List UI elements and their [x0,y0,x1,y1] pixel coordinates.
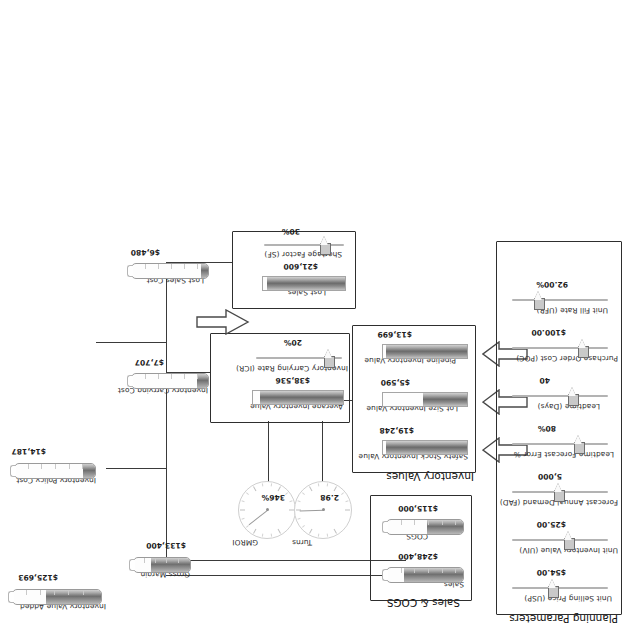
connector-gmroi-to-aiv [268,421,269,483]
value-bar [262,278,344,291]
thermometer-cap [8,591,14,603]
value-bar-fill [267,277,345,290]
slider-track[interactable] [264,244,344,246]
slider-track[interactable] [512,539,608,541]
slider-thumb[interactable] [568,386,577,406]
metric-value: $115,000 [398,504,438,513]
thermometer [14,465,94,479]
connector-up-to-ipc [96,342,167,343]
slider-thumb[interactable] [578,338,587,358]
control-value: 92.00% [536,280,568,289]
metric-value: $248,400 [398,552,438,561]
slider-track[interactable] [512,395,608,397]
thermometer-cap [382,569,388,581]
slider[interactable] [512,583,608,593]
value-bar [382,442,466,455]
thermometer-ticks [132,374,208,388]
slider-thumb-pointer [574,435,582,444]
thermometer [386,569,462,583]
thermometer-ticks [132,264,208,278]
thermometer-cap [10,465,16,477]
control-label: Leadtime Forecast Error % [514,450,614,459]
thermometer-ticks [13,590,101,604]
slider-thumb-pointer [554,483,562,492]
control-value: $54.00 [537,568,566,577]
control-value: $25.00 [537,520,566,529]
slider-track[interactable] [512,587,608,589]
gauge-dial: 2.98 [294,481,352,539]
thermometer-ticks [134,558,190,572]
value-bar [382,346,466,359]
thermometer-ticks [15,464,95,478]
value-bar-tube [382,392,468,407]
thermometer-tube [131,373,209,389]
thermometer-cap [127,375,133,387]
control-label: Unit Fill Rate (UFR) [537,306,608,315]
control-value: 20% [284,338,302,347]
thermometer [386,521,462,535]
value-bar [382,394,466,407]
thermometer-tube [386,567,464,583]
thermometer-tube [133,557,191,573]
metric-value: $7,707 [135,358,164,367]
metric-value: $19,248 [379,426,414,435]
gauge-needle [248,509,268,525]
slider-thumb-pointer [578,339,586,348]
slider-thumb[interactable] [320,235,329,255]
slider-track[interactable] [512,347,608,349]
slider-thumb-pointer [320,236,328,245]
value-bar-tube [252,390,344,405]
gauge-hub [322,509,325,512]
gauge-label: GMROI [232,538,258,547]
connector-up-to-iva [106,468,167,469]
slider[interactable] [512,391,608,401]
value-bar-fill [386,441,467,454]
slider-thumb[interactable] [324,348,333,368]
slider[interactable] [256,353,342,363]
thermometer-ticks [387,568,463,582]
control-label: Unit Selling Price (USP) [524,594,612,603]
gauge-needle [300,509,324,511]
thermometer-tube [14,463,96,479]
metric-value: $14,187 [11,447,46,456]
slider-thumb[interactable] [548,578,557,598]
slider-track[interactable] [512,443,608,445]
control-value: 30% [282,227,300,236]
thermometer-cap [127,265,133,277]
slider[interactable] [512,295,608,305]
connector-turns-to-aiv [322,421,323,483]
slider-thumb[interactable] [564,530,573,550]
value-bar-fill [423,393,467,406]
control-value: $100.00 [531,328,566,337]
control-value: 80% [538,424,556,433]
value-bar-fill [386,345,467,358]
thermometer [131,265,207,279]
slider-thumb-pointer [568,387,576,396]
slider-thumb[interactable] [574,434,583,454]
thermometer-tube [131,263,209,279]
thermometer-ticks [387,520,463,534]
slider[interactable] [264,240,344,250]
slider-thumb[interactable] [534,290,543,310]
slider[interactable] [512,439,608,449]
gauge-label: Turns [292,538,312,547]
gauge-value: 2.98 [320,493,339,502]
slider[interactable] [512,343,608,353]
slider-thumb[interactable] [554,482,563,502]
slider-track[interactable] [512,299,608,301]
slider[interactable] [512,487,608,497]
metric-value: $133,400 [146,541,186,550]
value-bar-tube [262,276,346,291]
metric-value: $21,600 [283,262,318,271]
thermometer-cap [382,521,388,533]
control-label: Purchase Order Cost (POC) [516,354,618,363]
slider[interactable] [512,535,608,545]
metric-value: $5,590 [381,378,410,387]
slider-thumb-pointer [324,349,332,358]
gauge-dial: 346% [238,481,296,539]
gauge-value: 346% [262,493,285,502]
thermometer-cap [129,559,135,571]
value-bar-tube [382,344,468,359]
